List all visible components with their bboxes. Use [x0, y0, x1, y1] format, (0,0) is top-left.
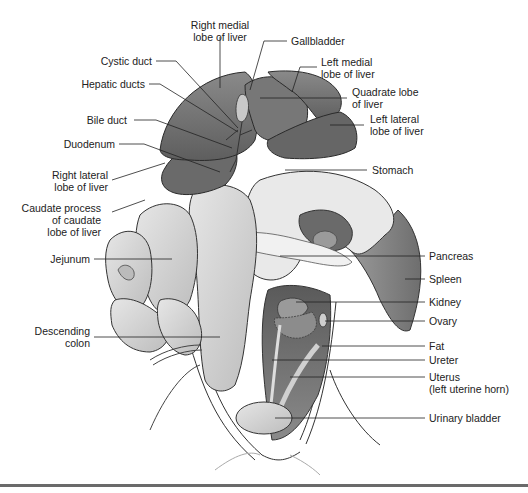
ovary: [319, 313, 327, 327]
label-caudate-process: Caudate process of caudate lobe of liver: [22, 202, 101, 238]
label-right-lateral-lobe-of-liver: Right lateral lobe of liver: [52, 169, 108, 193]
label-ureter: Ureter: [429, 354, 458, 366]
label-descending-colon: Descending colon: [35, 325, 90, 349]
label-left-medial-lobe-of-liver: Left medial lobe of liver: [321, 56, 375, 80]
label-urinary-bladder: Urinary bladder: [429, 412, 501, 424]
label-pancreas: Pancreas: [429, 250, 473, 262]
label-hepatic-ducts: Hepatic ducts: [81, 78, 145, 90]
label-bile-duct: Bile duct: [87, 114, 127, 126]
label-duodenum: Duodenum: [64, 138, 115, 150]
intestines: [106, 185, 257, 391]
label-spleen: Spleen: [429, 273, 462, 285]
label-right-medial-lobe-of-liver: Right medial lobe of liver: [183, 19, 257, 43]
label-uterus: Uterus (left uterine horn): [429, 371, 509, 395]
label-quadrate-lobe-of-liver: Quadrate lobe of liver: [352, 86, 419, 110]
label-jejunum: Jejunum: [50, 253, 90, 265]
label-kidney: Kidney: [429, 296, 461, 308]
label-gallbladder: Gallbladder: [291, 35, 345, 47]
bottom-rule: [0, 484, 528, 487]
label-ovary: Ovary: [429, 315, 457, 327]
anatomy-figure: Right medial lobe of liver Cystic duct H…: [0, 0, 528, 493]
label-fat: Fat: [429, 340, 444, 352]
label-left-lateral-lobe-of-liver: Left lateral lobe of liver: [370, 113, 424, 137]
label-cystic-duct: Cystic duct: [101, 55, 152, 67]
label-stomach: Stomach: [372, 164, 413, 176]
